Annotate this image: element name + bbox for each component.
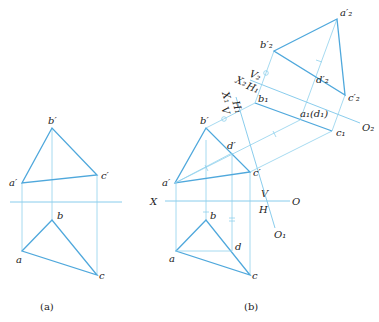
label-d2-prime: d′₂ (316, 74, 329, 85)
caption-b: (b) (244, 301, 258, 312)
label-b-prime: b′ (48, 115, 57, 126)
front-view-triangle-a (22, 128, 97, 183)
label-b-b: b (210, 210, 216, 221)
projection-diagram: b′ a′ c′ b a c (a) X V H O (0, 0, 379, 322)
label-O1: O₁ (274, 229, 286, 240)
label-b: b (57, 210, 63, 221)
label-c-prime: c′ (101, 170, 110, 181)
label-a-prime: a′ (9, 177, 18, 188)
label-a-b: a (169, 253, 175, 264)
true-shape-triangle (274, 19, 345, 95)
label-c: c (99, 270, 105, 281)
label-c-prime-b: c′ (253, 167, 262, 178)
label-b1: b₁ (258, 93, 268, 104)
label-c-b: c (252, 270, 258, 281)
label-d-b: d (235, 241, 241, 252)
label-H: H (258, 204, 268, 215)
top-view-triangle-a (22, 220, 97, 275)
projector-a1-a2 (300, 19, 337, 120)
label-O: O (292, 196, 300, 207)
label-a2-prime: a′₂ (340, 7, 352, 18)
figure-b: X V H O (149, 7, 374, 312)
label-d-prime-b: d′ (227, 140, 236, 151)
projector-c-c1 (250, 131, 332, 172)
tick-mark (316, 60, 322, 62)
label-a: a (16, 254, 22, 265)
label-b2-prime: b′₂ (260, 39, 273, 50)
figure-a: b′ a′ c′ b a c (a) (9, 115, 122, 312)
label-a1-d1: a₁(d₁) (300, 108, 328, 119)
label-O2: O₂ (362, 122, 374, 133)
label-b-prime-b: b′ (200, 115, 209, 126)
caption-a: (a) (40, 301, 54, 312)
label-X: X (149, 196, 158, 207)
label-c2-prime: c′₂ (348, 92, 360, 103)
label-c1: c₁ (336, 127, 346, 138)
front-view-triangle-b (175, 128, 250, 183)
label-a-prime-b: a′ (162, 177, 171, 188)
